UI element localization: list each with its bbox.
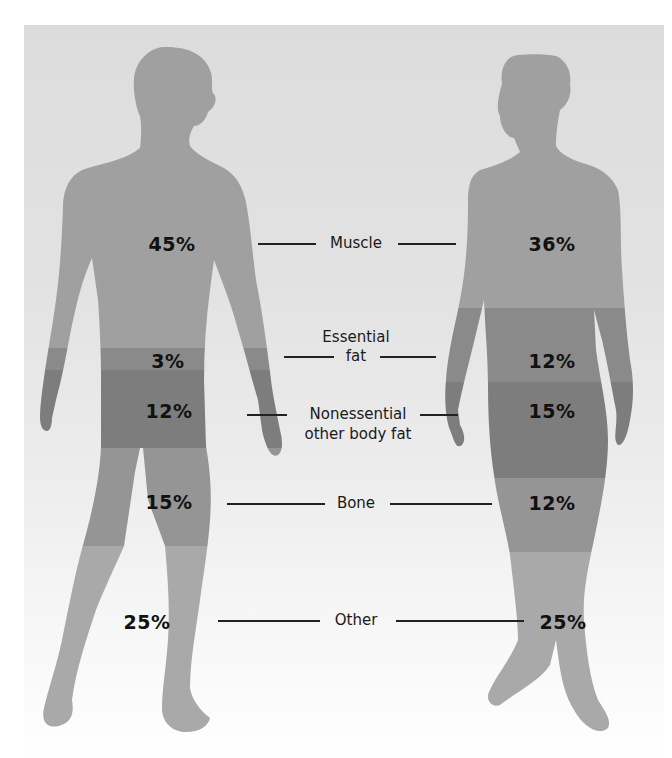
male-other-value: 25%: [124, 611, 171, 633]
female-essential-fat-value: 12%: [529, 350, 576, 372]
male-essential-fat-value: 3%: [151, 350, 184, 372]
female-bone-band: [336, 478, 672, 552]
female-figure: [336, 0, 672, 758]
muscle-leader-line-left: [258, 243, 316, 245]
other-label: Other: [335, 611, 378, 630]
muscle-label: Muscle: [330, 234, 382, 253]
bone-leader-line-left: [227, 503, 325, 505]
female-muscle-band: [336, 0, 672, 308]
female-other-value: 25%: [540, 611, 587, 633]
muscle-leader-line-right: [398, 243, 456, 245]
male-figure: [0, 0, 336, 758]
male-bone-value: 15%: [146, 491, 193, 513]
female-bone-value: 12%: [529, 492, 576, 514]
bone-label: Bone: [337, 494, 375, 513]
essential-fat-leader-line-right: [380, 356, 436, 358]
male-other-band: [0, 546, 336, 758]
nonessential-fat-label-line1: Nonessential: [310, 405, 407, 424]
other-leader-line-right: [396, 620, 524, 622]
female-nonessential-fat-value: 15%: [529, 400, 576, 422]
essential-fat-label-line1: Essential: [322, 328, 389, 347]
essential-fat-leader-line-left: [284, 356, 334, 358]
male-muscle-value: 45%: [149, 233, 196, 255]
male-muscle-band: [0, 0, 336, 348]
nonessential-fat-leader-line-right: [420, 414, 458, 416]
nonessential-fat-leader-line-left: [247, 414, 287, 416]
male-nonessential-fat-value: 12%: [146, 400, 193, 422]
female-muscle-value: 36%: [529, 233, 576, 255]
essential-fat-label-line2: fat: [346, 347, 366, 366]
bone-leader-line-right: [390, 503, 492, 505]
female-other-band: [336, 552, 672, 758]
other-leader-line-left: [218, 620, 320, 622]
body-silhouettes: [0, 0, 672, 758]
nonessential-fat-label-line2: other body fat: [305, 425, 412, 444]
